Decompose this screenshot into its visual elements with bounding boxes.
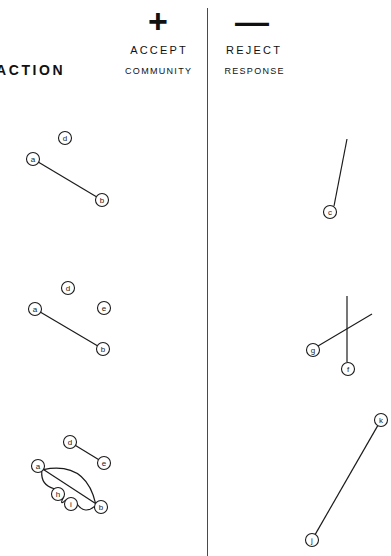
graph-node-label: d	[68, 438, 72, 447]
graph-edge	[315, 426, 378, 535]
graph-node-label: b	[100, 196, 105, 205]
graph-node-label: a	[36, 462, 41, 471]
graph-node-label: e	[102, 459, 107, 468]
graph-row-1-reject: c	[324, 139, 348, 219]
graph-node-label: j	[310, 536, 313, 545]
graph-node-label: h	[56, 490, 60, 499]
graph-edge	[334, 139, 347, 206]
graph-edge	[76, 445, 99, 459]
graph-row-2-reject: gf	[307, 296, 373, 376]
graph-node-label: a	[31, 155, 36, 164]
graph-node-label: a	[33, 305, 38, 314]
graph-row-1-accept: dab	[27, 132, 109, 207]
graph-diagram-layer: dabcdaebgfdeahibkj	[0, 0, 391, 556]
graph-node-label: d	[66, 284, 70, 293]
graph-node-label: e	[102, 304, 107, 313]
graph-node-label: b	[101, 345, 106, 354]
graph-row-2-accept: daeb	[29, 282, 111, 356]
graph-edge	[42, 471, 55, 488]
graph-node-label: d	[63, 134, 67, 143]
graph-edge	[77, 505, 94, 510]
graph-node-label: b	[99, 503, 104, 512]
graph-node-label: i	[70, 500, 72, 509]
graph-row-3-reject: kj	[306, 414, 388, 547]
graph-node-label: g	[311, 346, 315, 355]
graph-edge	[39, 162, 97, 196]
graph-edge	[318, 314, 372, 346]
graph-edge	[41, 312, 98, 345]
graph-row-3-accept: deahib	[32, 436, 111, 514]
figure-canvas: ACTION + — ACCEPT REJECT COMMUNITY RESPO…	[0, 0, 391, 556]
graph-node-label: c	[328, 208, 332, 217]
